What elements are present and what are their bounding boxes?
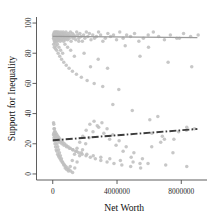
scatter-point [85,30,89,34]
scatter-point [146,162,150,166]
scatter-point [131,109,135,113]
scatter-point [73,153,77,157]
scatter-point [112,162,116,166]
y-tick-label: 20 [25,140,34,148]
scatter-point [63,42,67,46]
scatter-point [73,54,77,58]
scatter-point [190,65,194,69]
scatter-point [96,58,100,62]
scatter-point [69,39,73,43]
y-tick-label: 0 [25,172,34,176]
scatter-point [52,131,56,135]
x-axis-title: Net Worth [104,202,144,213]
y-tick-label: 60 [25,79,34,87]
scatter-point [129,165,133,169]
scatter-point [54,145,58,149]
scatter-point [60,58,64,62]
scatter-point [56,51,60,55]
scatter-point [114,144,118,148]
scatter-point [84,128,88,132]
scatter-point [81,148,85,152]
scatter-point [120,163,124,167]
scatter-point [96,124,100,128]
scatter-point [75,30,79,34]
scatter-point [69,48,73,52]
scatter-point [159,141,163,145]
scatter-point [71,70,75,74]
scatter-point [62,61,66,65]
scatter-point [67,67,71,71]
scatter-point [152,30,156,34]
scatter-point [75,147,79,151]
scatter-point [108,157,112,161]
scatter-point [58,54,62,58]
scatter-point [164,163,168,167]
scatter-point [147,45,151,49]
scatter-point [85,153,89,157]
scatter-point [84,142,88,146]
scatter-plot-figure: 040000008000000020406080100Net WorthSupp… [0,0,216,222]
chart-canvas: 040000008000000020406080100Net WorthSupp… [0,0,216,222]
scatter-point [52,122,56,126]
scatter-point [55,48,59,52]
scatter-point [91,130,95,134]
scatter-point [78,141,82,145]
scatter-point [163,138,167,142]
scatter-point [166,61,170,65]
scatter-point [80,151,84,155]
scatter-point [106,32,110,36]
scatter-point [182,32,186,36]
y-tick-label: 80 [25,49,34,57]
scatter-point [81,39,85,43]
scatter-point [75,160,79,164]
scatter-point [123,44,127,48]
scatter-point [124,145,128,149]
scatter-point [78,32,82,36]
scatter-point [146,33,150,37]
scatter-point [68,147,72,151]
scatter-point [163,38,167,42]
scatter-point [99,156,103,160]
scatter-point [92,119,96,123]
scatter-point [138,162,142,166]
scatter-point [119,159,123,163]
scatter-point [171,151,175,155]
scatter-point [132,151,136,155]
scatter-point [75,150,79,154]
scatter-point [118,30,122,34]
scatter-point [148,118,152,122]
scatter-point [185,125,189,128]
scatter-point [169,33,173,37]
scatter-point [88,32,92,36]
scatter-point [129,156,133,160]
scatter-point [121,150,125,154]
scatter-point [105,127,109,131]
scatter-point [100,121,104,125]
scatter-point [108,138,112,142]
scatter-point [102,131,106,135]
scatter-point [196,33,200,37]
scatter-point [61,51,65,55]
scatter-point [53,127,57,131]
scatter-points-group [52,30,200,174]
lower-regression-line [53,129,198,140]
scatter-point [133,32,137,36]
scatter-point [75,73,79,77]
scatter-point [89,65,93,69]
scatter-point [101,85,105,89]
scatter-point [71,159,75,163]
scatter-point [74,38,78,42]
scatter-point [73,166,77,170]
scatter-point [92,82,96,86]
scatter-point [99,159,103,163]
scatter-point [161,134,165,138]
x-tick-label: 0 [51,187,55,196]
scatter-point [80,76,84,80]
scatter-point [172,138,176,142]
scatter-point [71,171,75,175]
scatter-point [97,30,101,34]
y-tick-label: 40 [25,110,34,118]
y-tick-label: 100 [25,17,34,28]
scatter-point [59,48,63,52]
scatter-point [94,157,98,161]
